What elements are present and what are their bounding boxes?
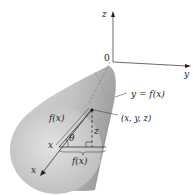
point-label: (x, y, z) — [121, 113, 151, 123]
y-axis — [113, 62, 191, 68]
base-side-label: f(x) — [71, 156, 88, 166]
solid-diagram: z y 0 x y = f(x) (x, y, z) f(x) f(x) θ z… — [0, 0, 193, 195]
curve-leader — [115, 93, 127, 97]
angle-label: θ — [69, 133, 75, 143]
x-position-label: x — [48, 140, 53, 150]
z-axis-label: z — [101, 9, 107, 19]
slant-side-label: f(x) — [48, 113, 65, 123]
curve-label: y = f(x) — [130, 89, 165, 99]
point-marker — [90, 108, 93, 111]
x-axis-label: x — [31, 165, 36, 175]
y-axis-label: y — [183, 69, 190, 79]
cone-solid — [10, 62, 115, 194]
origin-label: 0 — [104, 53, 110, 63]
height-label: z — [93, 126, 99, 136]
z-axis — [111, 11, 115, 62]
